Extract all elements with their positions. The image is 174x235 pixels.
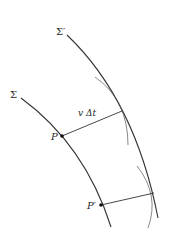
wavefront-sigma-prime-curve (67, 35, 158, 218)
label-sigma-prime: Σ′ (56, 27, 65, 37)
point-p-dot (60, 134, 64, 138)
wavefront-sigma-curve (21, 98, 111, 227)
secondary-wavelet-arc (137, 166, 152, 228)
label-v-delta-t: v Δt (78, 109, 96, 118)
wavefront-diagram: Σ′ Σ v Δt P P′ (0, 0, 174, 235)
point-p-prime-dot (99, 203, 103, 207)
label-point-p: P (51, 132, 58, 142)
label-point-p-prime: P′ (87, 201, 96, 211)
p-prime-ray-segment (101, 193, 154, 205)
label-sigma: Σ (10, 90, 17, 100)
